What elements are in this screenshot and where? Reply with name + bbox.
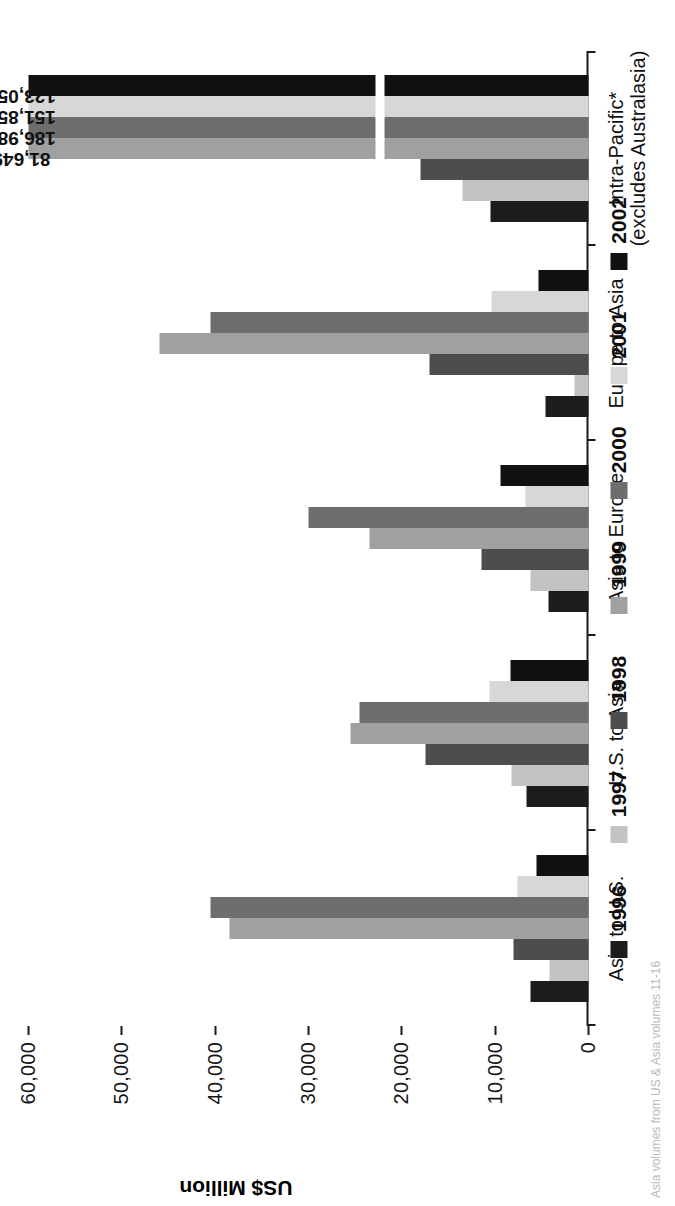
- category-divider-tick: [587, 1024, 595, 1026]
- category-divider-tick: [587, 244, 595, 246]
- bar[interactable]: [536, 855, 588, 876]
- bar[interactable]: [545, 396, 588, 417]
- y-axis-tick: [214, 1026, 216, 1035]
- bar-data-label: 123,054: [0, 86, 55, 108]
- legend-item[interactable]: 1998: [606, 656, 630, 729]
- legend-label: 1999: [606, 541, 630, 588]
- axis-break-marker: [375, 95, 384, 118]
- legend-swatch-icon: [610, 367, 627, 384]
- legend-item[interactable]: 1997: [606, 771, 630, 844]
- bar-group: 81,649186,984151,854123,054Intra-Pacific…: [28, 51, 588, 246]
- bar[interactable]: [513, 939, 588, 960]
- bar[interactable]: [530, 981, 588, 1002]
- y-axis-tick: [27, 1026, 29, 1035]
- legend-swatch-icon: [610, 941, 627, 958]
- bar-group: Europe to Asia: [28, 246, 588, 441]
- y-axis-tick: [120, 1026, 122, 1035]
- bar[interactable]: [462, 180, 588, 201]
- y-axis-tick: [400, 1026, 402, 1035]
- bar[interactable]: [491, 291, 588, 312]
- legend-item[interactable]: 1999: [606, 541, 630, 614]
- y-axis-tick: [494, 1026, 496, 1035]
- y-axis-tick-label: 60,000: [17, 1042, 40, 1104]
- bar[interactable]: [548, 591, 588, 612]
- bar[interactable]: [210, 897, 588, 918]
- footnote: Asia volumes from US & Asia volumes 11-1…: [648, 961, 662, 1198]
- bar-group: U.S. to Asia: [28, 636, 588, 831]
- legend-label: 1996: [606, 885, 630, 932]
- bar[interactable]: [159, 333, 588, 354]
- bar[interactable]: [420, 159, 588, 180]
- bar[interactable]: [210, 312, 588, 333]
- legend-item[interactable]: 2002: [606, 197, 630, 270]
- y-axis-tick-label: 0: [577, 1042, 600, 1053]
- axis-break-marker: [375, 137, 384, 160]
- bar[interactable]: [517, 876, 588, 897]
- bar[interactable]: [359, 702, 588, 723]
- bar[interactable]: [229, 918, 588, 939]
- bar[interactable]: 81,649: [28, 138, 588, 159]
- bar[interactable]: [490, 201, 588, 222]
- bar[interactable]: [530, 570, 588, 591]
- legend-swatch-icon: [610, 597, 627, 614]
- legend: 1996199719981999200020012002: [606, 197, 630, 958]
- legend-item[interactable]: 2000: [606, 426, 630, 499]
- bar[interactable]: 151,854: [28, 96, 588, 117]
- axis-break-marker: [375, 74, 384, 97]
- bar[interactable]: [489, 681, 588, 702]
- legend-swatch-icon: [610, 712, 627, 729]
- legend-swatch-icon: [610, 482, 627, 499]
- y-axis-tick-label: 30,000: [297, 1042, 320, 1104]
- legend-item[interactable]: 2001: [606, 312, 630, 385]
- y-axis-tick-label: 40,000: [203, 1042, 226, 1104]
- bar[interactable]: [574, 375, 588, 396]
- plot-area: 010,00020,00030,00040,00050,00060,000 As…: [28, 51, 588, 1026]
- bar-data-label: 81,649: [0, 149, 50, 171]
- y-axis-tick-label: 20,000: [390, 1042, 413, 1104]
- bar[interactable]: 186,984: [28, 117, 588, 138]
- y-axis-tick: [587, 1026, 589, 1035]
- legend-swatch-icon: [610, 253, 627, 270]
- bar-data-label: 186,984: [0, 128, 55, 150]
- bar[interactable]: [526, 786, 588, 807]
- y-axis-tick-label: 10,000: [483, 1042, 506, 1104]
- bar[interactable]: [429, 354, 588, 375]
- bar[interactable]: [369, 528, 588, 549]
- bar[interactable]: [500, 465, 588, 486]
- bar[interactable]: [481, 549, 588, 570]
- bar[interactable]: [511, 765, 588, 786]
- y-axis-tick-label: 50,000: [110, 1042, 133, 1104]
- y-axis-tick: [307, 1026, 309, 1035]
- bar[interactable]: [549, 960, 588, 981]
- category-divider-tick: [587, 634, 595, 636]
- bar[interactable]: [510, 660, 588, 681]
- legend-label: 1998: [606, 656, 630, 703]
- legend-label: 1997: [606, 771, 630, 818]
- bar-chart-figure: US$ Million 010,00020,00030,00040,00050,…: [0, 0, 675, 1206]
- bar-group: Asia to Europe: [28, 441, 588, 636]
- category-divider-tick: [587, 439, 595, 441]
- legend-swatch-icon: [610, 826, 627, 843]
- category-divider-tick: [587, 51, 595, 53]
- bar-data-label: 151,854: [0, 107, 55, 129]
- legend-item[interactable]: 1996: [606, 885, 630, 958]
- legend-label: 2000: [606, 426, 630, 473]
- bar-group: Asia to U.S.: [28, 831, 588, 1026]
- bar[interactable]: [525, 486, 588, 507]
- bar[interactable]: [308, 507, 588, 528]
- bar[interactable]: [425, 744, 588, 765]
- legend-label: 2002: [606, 197, 630, 244]
- rotated-page-wrapper: US$ Million 010,00020,00030,00040,00050,…: [0, 0, 675, 1206]
- bar[interactable]: [538, 270, 588, 291]
- bar[interactable]: [350, 723, 588, 744]
- category-divider-tick: [587, 829, 595, 831]
- bar[interactable]: 123,054: [28, 75, 588, 96]
- y-axis-title: US$ Million: [179, 1176, 292, 1200]
- axis-break-marker: [375, 116, 384, 139]
- legend-label: 2001: [606, 312, 630, 359]
